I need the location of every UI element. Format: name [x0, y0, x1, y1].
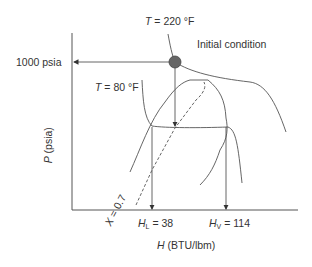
t-high-val: = 220 °F	[151, 15, 194, 27]
hl-val: = 38	[150, 217, 174, 229]
pressure-label: 1000 psia	[16, 57, 62, 68]
hv-label: HV = 114	[209, 218, 250, 230]
hl-var: H	[138, 217, 146, 229]
quality-line	[136, 82, 205, 205]
t-low-val: = 80 °F	[101, 81, 138, 93]
y-axis-var: P	[42, 156, 54, 163]
x-axis-var: H	[157, 239, 165, 251]
hv-val: = 114	[221, 217, 250, 229]
x-axis-unit: (BTU/lbm)	[165, 239, 216, 251]
x-axis-label: H (BTU/lbm)	[157, 240, 215, 251]
y-axis-label: P (psia)	[43, 127, 54, 163]
t-low-label: T = 80 °F	[95, 82, 139, 93]
initial-condition-point	[169, 56, 181, 68]
hl-label: HL = 38	[138, 218, 173, 230]
y-axis-unit: (psia)	[42, 127, 54, 156]
t-high-label: T = 220 °F	[145, 16, 194, 27]
initial-condition-label: Initial condition	[197, 39, 266, 50]
hv-var: H	[209, 217, 217, 229]
saturation-dome	[130, 80, 227, 185]
